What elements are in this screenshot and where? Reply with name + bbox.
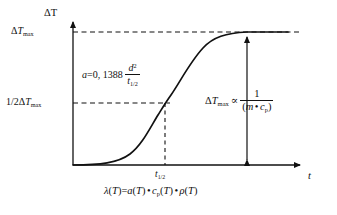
x-tick-label-t-half: t1/2: [155, 170, 165, 181]
caption-equation: λ(T)=a(T)•cp(T)•ρ(T): [104, 186, 197, 197]
proportionality-fraction: 1(m•cp): [240, 89, 273, 113]
plot-canvas: [0, 0, 337, 215]
y-tick-label-delta-t-max: ΔTmax: [11, 26, 34, 37]
y-tick-label-half-delta-t-max: 1/2ΔTmax: [6, 97, 41, 108]
proportionality-numerator: 1: [240, 89, 273, 101]
y-axis-title: ΔT: [44, 8, 57, 19]
proportionality-denominator: (m•cp): [240, 101, 273, 113]
diffusivity-numerator: d2: [125, 63, 140, 74]
proportional-to-symbol: ∝: [229, 94, 240, 106]
thermal-diffusivity-figure: ΔT t ΔTmax 1/2ΔTmax t1/2 a=0, 1388 d2t1/…: [0, 0, 337, 215]
annotation-proportionality: ΔTmax∝1(m•cp): [205, 90, 273, 114]
annotation-thermal-diffusivity: a=0, 1388 d2t1/2: [82, 64, 140, 87]
x-axis-title: t: [308, 171, 311, 182]
diffusivity-fraction: d2t1/2: [125, 63, 140, 86]
diffusivity-denominator: t1/2: [125, 75, 140, 87]
diffusivity-coefficient: 0, 1388: [93, 69, 123, 80]
